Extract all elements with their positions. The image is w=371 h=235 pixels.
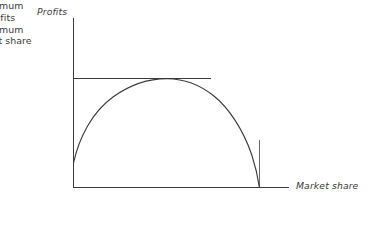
profit-market-share-diagram: Profits Market share Maximum profits Max… [0, 0, 371, 235]
maximum-profits-label-line2: profits [0, 12, 186, 24]
maximum-profits-label: Maximum profits [0, 0, 186, 24]
profit-curve [74, 79, 260, 188]
maximum-market-share-label: Maximum market share [0, 24, 186, 48]
maximum-market-share-label-line1: Maximum [0, 24, 186, 36]
maximum-profits-label-line1: Maximum [0, 0, 186, 12]
x-axis-title: Market share [296, 180, 358, 192]
maximum-market-share-label-line2: market share [0, 35, 186, 47]
